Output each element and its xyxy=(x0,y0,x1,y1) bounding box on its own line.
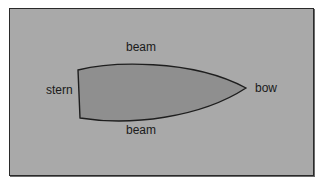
hull-shape xyxy=(78,64,246,121)
beam-bottom-label: beam xyxy=(126,124,156,136)
bow-label: bow xyxy=(255,82,277,94)
beam-top-label: beam xyxy=(126,41,156,53)
stern-label: stern xyxy=(46,84,73,96)
